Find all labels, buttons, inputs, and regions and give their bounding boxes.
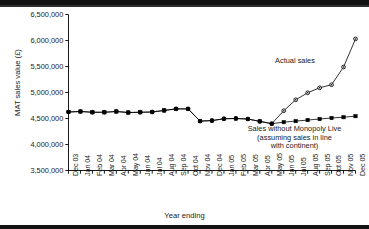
x-axis-tick-label: Jan 04	[83, 155, 92, 176]
series-marker	[282, 120, 285, 123]
series-marker	[174, 107, 177, 110]
x-axis-tick-label: Nov 04	[203, 154, 212, 176]
y-axis-tick-label: 4,000,000	[15, 140, 63, 149]
series-marker	[342, 116, 345, 119]
series-marker	[127, 111, 130, 114]
series-marker	[91, 111, 94, 114]
series-marker-center	[307, 92, 309, 94]
series-marker	[210, 119, 213, 122]
series-marker	[162, 109, 165, 112]
series-marker	[67, 110, 70, 113]
series-marker	[139, 111, 142, 114]
series-marker-center	[331, 84, 333, 86]
y-axis-tick-label: 5,500,000	[15, 62, 63, 71]
y-axis-tick-label: 6,500,000	[15, 10, 63, 19]
series-line-circle	[69, 39, 356, 124]
x-axis-tick-label: Feb 05	[239, 154, 248, 176]
series-marker	[354, 114, 357, 117]
series-marker	[186, 107, 189, 110]
y-axis-tick-label: 4,500,000	[15, 114, 63, 123]
series-marker-center	[343, 66, 345, 68]
series-marker	[318, 117, 321, 120]
x-axis-tick-label: Mar 05	[251, 154, 260, 176]
series-marker	[103, 111, 106, 114]
series-marker	[151, 110, 154, 113]
x-axis-tick-label: Oct 04	[191, 155, 200, 176]
x-axis-tick-label: Aug 04	[167, 154, 176, 176]
series-marker	[246, 117, 249, 120]
series-marker	[294, 119, 297, 122]
series-marker	[306, 118, 309, 121]
x-axis-tick-label: Feb 04	[95, 154, 104, 176]
series-marker	[330, 116, 333, 119]
x-axis-tick-label: Jul 04	[155, 157, 164, 176]
x-axis-tick-label: Jun 05	[287, 155, 296, 176]
x-axis-tick-label: Nov 05	[346, 154, 355, 176]
x-axis-tick-label: Oct 05	[334, 155, 343, 176]
series-marker	[79, 110, 82, 113]
series-marker	[258, 120, 261, 123]
x-axis-tick-label: Apr 04	[119, 155, 128, 176]
series-marker	[115, 110, 118, 113]
series-marker-center	[283, 110, 285, 112]
x-axis-tick-label: Dec 04	[215, 154, 224, 176]
y-axis-tick-label: 3,500,000	[15, 166, 63, 175]
series-marker-center	[295, 99, 297, 101]
series-marker	[222, 117, 225, 120]
x-axis-tick-label: Jan 05	[227, 155, 236, 176]
x-axis-tick-label: Sep 04	[179, 154, 188, 176]
chart-figure: MAT sales value (£) Year ending Actual s…	[0, 0, 369, 229]
series-marker	[198, 119, 201, 122]
series-marker-center	[355, 38, 357, 40]
series-marker	[234, 117, 237, 120]
x-axis-tick-label: May 05	[275, 153, 284, 176]
x-axis-tick-label: Dec 03	[71, 154, 80, 176]
x-axis-tick-label: Sep 05	[323, 154, 332, 176]
x-axis-tick-label: May 04	[131, 153, 140, 176]
x-axis-tick-label: Mar 04	[107, 154, 116, 176]
x-axis-tick-label: Dec 05	[358, 154, 367, 176]
x-axis-tick-label: Jun 04	[143, 155, 152, 176]
x-axis-tick-label: Jul 05	[299, 157, 308, 176]
y-axis-tick-label: 5,000,000	[15, 88, 63, 97]
x-axis-tick-label: Aug 05	[311, 154, 320, 176]
y-axis-tick-label: 6,000,000	[15, 36, 63, 45]
series-marker-center	[319, 87, 321, 89]
x-axis-tick-label: Apr 05	[263, 155, 272, 176]
series-marker	[270, 122, 273, 125]
